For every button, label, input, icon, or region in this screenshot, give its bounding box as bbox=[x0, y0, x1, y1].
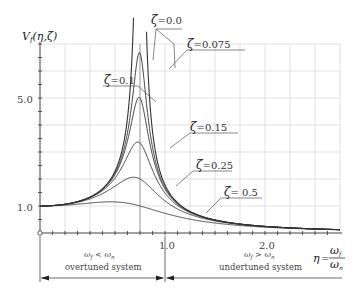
label-zeta-025: ζ=0.25 bbox=[196, 158, 233, 172]
arrow-right-start bbox=[166, 276, 174, 281]
arrow-left-end bbox=[156, 276, 164, 281]
region-dimensions bbox=[40, 236, 342, 282]
x-tick-label-1: 1.0 bbox=[159, 240, 175, 251]
undertuned-label: undertuned system bbox=[219, 262, 302, 272]
math-sub: n bbox=[111, 254, 115, 260]
zeta-value: =0.075 bbox=[194, 39, 231, 50]
math-sub: n bbox=[271, 254, 275, 260]
y-tick-label-1: 1.0 bbox=[17, 202, 33, 213]
math-op: > bbox=[253, 250, 265, 259]
origin-marker bbox=[38, 231, 42, 235]
arrow-left-start bbox=[41, 276, 49, 281]
zeta-value: =0.15 bbox=[197, 122, 228, 133]
x-title-numerator: ω bbox=[330, 244, 339, 257]
label-zeta-01: ζ=0.1 bbox=[104, 73, 135, 87]
zeta-value: =0.1 bbox=[111, 75, 135, 86]
label-zeta-05: ζ= 0.5 bbox=[224, 185, 258, 199]
svg-text:ωn: ωn bbox=[330, 258, 343, 271]
y-title-args: (η,ζ) bbox=[33, 30, 58, 43]
label-zeta-0: ζ=0.0 bbox=[151, 13, 182, 27]
zeta-value: = 0.5 bbox=[231, 187, 258, 198]
undertuned-condition: ωf > ωn bbox=[244, 250, 275, 261]
x-title-denominator: ω bbox=[330, 258, 339, 271]
label-zeta-0075: ζ=0.075 bbox=[187, 37, 231, 51]
x-title-denominator-sub: n bbox=[339, 264, 343, 271]
math-op: < bbox=[93, 250, 105, 259]
grid bbox=[40, 44, 340, 233]
overtuned-condition: ωf < ωn bbox=[84, 250, 115, 261]
y-axis-title: Vf(η,ζ) bbox=[22, 30, 57, 44]
svg-text:ωf: ωf bbox=[330, 244, 343, 258]
overtuned-label: overtuned system bbox=[65, 262, 142, 272]
zeta-value: =0.25 bbox=[203, 160, 234, 171]
x-title-numerator-sub: f bbox=[338, 250, 343, 258]
y-tick-label-5: 5.0 bbox=[17, 94, 33, 105]
eta-symbol: η bbox=[313, 252, 320, 265]
equals-sign: = bbox=[321, 253, 329, 264]
label-zeta-015: ζ=0.15 bbox=[190, 120, 227, 134]
zeta-value: =0.0 bbox=[158, 15, 182, 26]
x-axis-title: η = ωf ωn bbox=[313, 244, 345, 271]
frequency-response-diagram: Vf(η,ζ) 5.0 1.0 1.0 2.0 η = ωf ωn ζ=0.0 bbox=[0, 0, 361, 295]
